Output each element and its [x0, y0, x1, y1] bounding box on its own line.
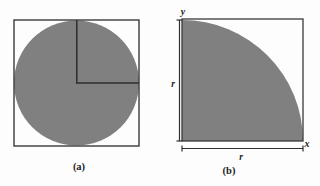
panel-b-caption: (b) — [223, 165, 236, 177]
panel-b-x-axis-label: x — [304, 138, 310, 149]
panel-b-y-axis-label: y — [180, 6, 186, 17]
panel-b-horizontal-dimension — [182, 146, 303, 152]
panel-a-caption: (a) — [73, 161, 86, 173]
panel-b: y x r r (b) — [171, 6, 309, 177]
figure-container: (a) y x — [0, 0, 320, 186]
panel-b-radius-label-vertical: r — [171, 79, 175, 89]
panel-b-radius-label-horizontal: r — [239, 152, 243, 162]
geometry-figure-svg: (a) y x — [0, 0, 320, 186]
panel-a: (a) — [14, 20, 139, 173]
